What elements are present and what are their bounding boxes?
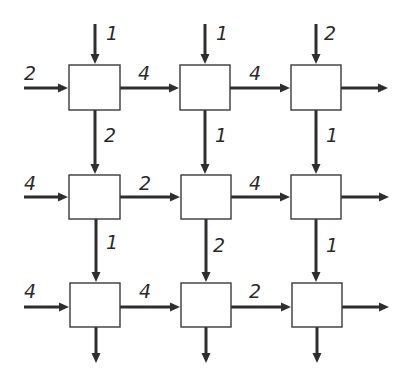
arrowhead-icon (312, 54, 321, 64)
arrowhead-icon (202, 353, 211, 363)
node-box-n12 (180, 65, 230, 110)
arrow-left-in-r3 (24, 303, 69, 312)
arrowhead-icon (281, 303, 291, 312)
arrow-right-out-r3 (342, 303, 389, 312)
node-box-n32 (181, 283, 231, 327)
node-box-n22 (181, 175, 231, 219)
flow-label-top-in-c3: 2 (324, 22, 336, 44)
arrow-left-in-r1 (24, 84, 68, 93)
node-box-n33 (292, 283, 342, 327)
arrowhead-icon (379, 303, 389, 312)
arrowhead-icon (201, 164, 210, 174)
node-box-n21 (69, 175, 120, 219)
flow-label-left-in-r1: 2 (24, 62, 36, 84)
arrowhead-icon (201, 54, 210, 64)
flow-label-h-r2-c2c3: 4 (249, 172, 261, 194)
arrow-top-in-c3 (312, 24, 321, 64)
arrow-v-c3-r1r2 (312, 110, 321, 174)
arrow-top-in-c1 (91, 24, 100, 64)
arrowhead-icon (58, 193, 68, 202)
arrow-v-c3-r2r3 (312, 219, 321, 282)
arrowhead-icon (379, 193, 389, 202)
arrow-v-c1-r2r3 (92, 219, 101, 282)
flow-label-h-r3-c1c2: 4 (139, 280, 151, 302)
flow-grid-diagram: 112244211424121442 (0, 0, 410, 384)
arrow-top-in-c2 (201, 24, 210, 64)
arrowhead-icon (170, 303, 180, 312)
arrowhead-icon (169, 84, 179, 93)
arrow-v-c2-r1r2 (201, 110, 210, 174)
node-box-n23 (291, 175, 341, 219)
diagram-canvas: 112244211424121442 (0, 0, 410, 384)
arrow-v-c1-r1r2 (91, 110, 100, 174)
arrow-bottom-out-c2 (202, 327, 211, 363)
arrow-h-r3-c1c2 (120, 303, 180, 312)
flow-label-left-in-r3: 4 (24, 280, 36, 302)
flow-label-v-c2-r1r2: 1 (215, 124, 227, 146)
arrowhead-icon (280, 84, 290, 93)
flow-label-h-r1-c2c3: 4 (249, 62, 261, 84)
flow-label-v-c2-r2r3: 2 (213, 234, 225, 256)
arrowhead-icon (313, 353, 322, 363)
arrowhead-icon (91, 54, 100, 64)
labels-layer: 112244211424121442 (24, 22, 338, 302)
arrowhead-icon (91, 164, 100, 174)
arrow-v-c2-r2r3 (202, 219, 211, 282)
flow-label-v-c1-r1r2: 2 (104, 124, 116, 146)
arrow-h-r1-c2c3 (230, 84, 290, 93)
flow-label-v-c3-r2r3: 1 (326, 234, 338, 256)
arrowhead-icon (92, 272, 101, 282)
arrowhead-icon (312, 164, 321, 174)
arrow-h-r1-c1c2 (120, 84, 179, 93)
arrowhead-icon (170, 193, 180, 202)
flow-label-v-c1-r2r3: 1 (106, 231, 118, 253)
flow-label-h-r1-c1c2: 4 (138, 62, 150, 84)
arrowhead-icon (280, 193, 290, 202)
arrowhead-icon (58, 84, 68, 93)
node-box-n31 (70, 283, 120, 327)
arrow-right-out-r1 (341, 84, 388, 93)
flow-label-top-in-c2: 1 (216, 22, 228, 44)
flow-label-h-r2-c1c2: 2 (139, 172, 151, 194)
arrowhead-icon (92, 353, 101, 363)
arrow-h-r3-c2c3 (231, 303, 291, 312)
flow-label-left-in-r2: 4 (24, 172, 36, 194)
node-box-n11 (69, 65, 120, 110)
arrowhead-icon (59, 303, 69, 312)
node-box-n13 (291, 65, 341, 110)
flow-label-h-r3-c2c3: 2 (249, 280, 261, 302)
arrow-right-out-r2 (341, 193, 389, 202)
arrowhead-icon (312, 272, 321, 282)
flow-label-v-c3-r1r2: 1 (326, 124, 338, 146)
arrow-bottom-out-c3 (313, 327, 322, 363)
arrow-bottom-out-c1 (92, 327, 101, 363)
flow-label-top-in-c1: 1 (106, 22, 118, 44)
nodes-layer (69, 65, 342, 327)
arrowhead-icon (202, 272, 211, 282)
arrowhead-icon (378, 84, 388, 93)
